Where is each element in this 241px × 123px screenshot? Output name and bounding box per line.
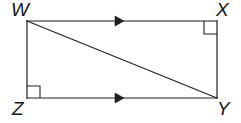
geometry-figure: W X Y Z (0, 0, 241, 123)
vertex-label-X: X (216, 0, 229, 19)
parallel-arrow-top (115, 16, 124, 26)
vertex-label-Y: Y (217, 99, 230, 118)
vertex-label-Z: Z (12, 99, 24, 118)
diagonal-WY (27, 21, 217, 98)
vertex-label-W: W (11, 0, 29, 19)
figure-canvas (0, 0, 241, 123)
right-angle-mark-Z (27, 86, 40, 98)
parallel-arrow-bottom (115, 93, 124, 103)
right-angle-mark-X (204, 21, 217, 34)
